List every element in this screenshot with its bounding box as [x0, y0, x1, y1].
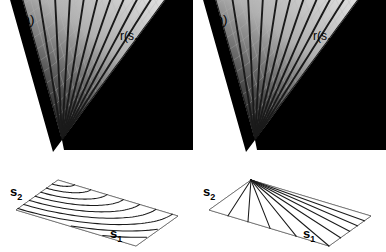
z-label-prefix: r(s [120, 29, 134, 43]
z-label-prefix: r(s [313, 29, 327, 43]
z-label-mid: ,s [139, 29, 148, 43]
panel-tag-b: (b) [211, 12, 228, 27]
z-label-suffix: ) [346, 29, 350, 43]
surface-plot-a: (a)r(s1,s2)s2s1 [0, 0, 193, 252]
surface-plot-b: (b)r(s1,s2)s2s1 [193, 0, 386, 252]
y-axis-sub: 2 [17, 192, 22, 202]
x-axis-sub: 1 [117, 234, 122, 244]
x-axis-letter: s [303, 226, 310, 241]
z-label-suffix: ) [153, 29, 157, 43]
panel-a: (a)r(s1,s2)s2s1 [0, 0, 193, 252]
panel-b: (b)r(s1,s2)s2s1 [193, 0, 386, 252]
y-axis-letter: s [203, 184, 210, 199]
base-plane-front-a [16, 180, 178, 246]
x-axis-letter: s [110, 226, 117, 241]
panel-tag-a: (a) [18, 12, 35, 27]
base-plane-front-b [209, 180, 371, 246]
y-axis-label-a: s2 [10, 184, 22, 202]
x-axis-sub: 1 [310, 234, 315, 244]
figure-root: (a)r(s1,s2)s2s1 (b)r(s1,s2)s2s1 [0, 0, 386, 252]
y-axis-label-b: s2 [203, 184, 215, 202]
z-label-mid: ,s [332, 29, 341, 43]
y-axis-letter: s [10, 184, 17, 199]
y-axis-sub: 2 [210, 192, 215, 202]
